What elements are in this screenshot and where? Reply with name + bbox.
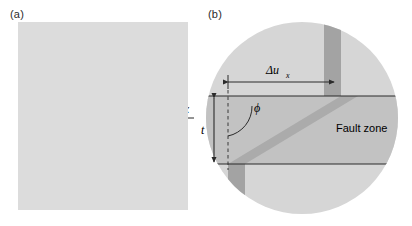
marker-band-lower <box>228 164 245 220</box>
angle-label-phi: ϕ <box>254 101 260 115</box>
offset-label-subscript: x <box>285 71 290 80</box>
panel-a-label: (a) <box>10 8 24 20</box>
offset-label-base: Δu <box>265 63 279 77</box>
panel-a-background <box>18 22 188 210</box>
figure-root: (a) <box>0 0 412 226</box>
thickness-label: t <box>201 123 205 137</box>
panel-a: y x a 2a ϕ e u x Fault <box>18 22 188 210</box>
marker-band-upper <box>324 14 341 96</box>
panel-b: Δu x t ϕ Fault zone <box>196 14 408 220</box>
panel-b-drawing: Δu x t ϕ Fault zone <box>196 14 408 220</box>
fault-zone-label: Fault zone <box>336 122 387 134</box>
